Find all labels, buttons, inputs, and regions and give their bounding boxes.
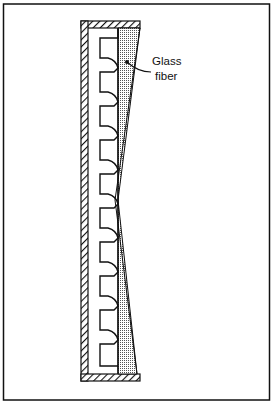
outer-frame: [4, 4, 270, 400]
label-line-2: fiber: [155, 70, 178, 82]
leader-dot: [125, 60, 129, 64]
diagram: Glass fiber: [0, 0, 275, 406]
label-line-1: Glass: [152, 55, 182, 67]
